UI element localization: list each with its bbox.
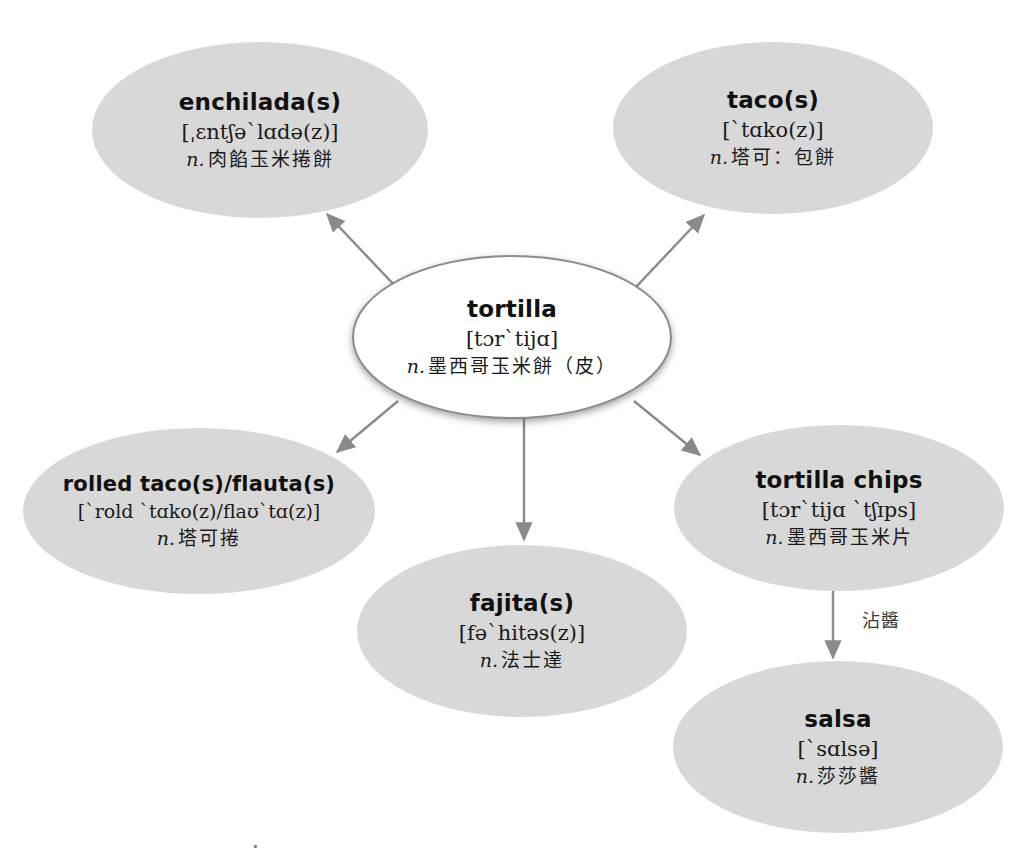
node-gloss: n.塔可捲 [157,527,241,550]
node-ipa: [tɔrˋtijɑ ˋtʃɪps] [762,498,917,522]
node-enchilada[interactable]: enchilada(s) [ˌɛntʃəˋlɑdə(z)] n.肉餡玉米捲餅 [92,42,428,218]
node-gloss: n.墨西哥玉米餅（皮） [407,355,617,378]
node-pos: n. [407,355,425,377]
edge-tortilla-to-rolled-taco [337,401,398,452]
node-term: rolled taco(s)/flauta(s) [63,472,335,496]
node-gloss: n.莎莎醬 [796,765,880,788]
node-ipa: [fəˋhitəs(z)] [459,621,585,645]
node-fajita[interactable]: fajita(s) [fəˋhitəs(z)] n.法士達 [357,545,687,717]
node-gloss: n.肉餡玉米捲餅 [186,148,333,171]
node-gloss: n.法士達 [480,649,564,672]
diagram-canvas: 沾醬 tortilla [tɔrˋtijɑ] n.墨西哥玉米餅（皮） enchi… [0,0,1031,853]
node-term: enchilada(s) [179,89,341,115]
node-salsa[interactable]: salsa [ˋsɑlsə] n.莎莎醬 [673,661,1003,833]
node-tortilla[interactable]: tortilla [tɔrˋtijɑ] n.墨西哥玉米餅（皮） [352,255,672,419]
node-term: tortilla [467,296,557,322]
node-gloss-text: 墨西哥玉米餅（皮） [428,355,617,377]
node-pos: n. [186,148,204,170]
node-gloss: n.塔可：包餅 [710,146,836,169]
node-gloss-text: 肉餡玉米捲餅 [208,148,334,170]
node-pos: n. [157,527,175,549]
node-ipa: [ˋrold ˋtɑko(z)/flaʊˋtɑ(z)] [78,501,321,523]
node-term: taco(s) [727,87,819,113]
node-gloss-text: 塔可捲 [178,527,241,549]
node-pos: n. [480,649,498,671]
node-gloss-text: 莎莎醬 [817,765,880,787]
node-tortilla-chips[interactable]: tortilla chips [tɔrˋtijɑ ˋtʃɪps] n.墨西哥玉米… [674,425,1004,591]
edge-tortilla-to-tortilla-chips [634,401,700,455]
node-term: tortilla chips [755,467,922,493]
node-pos: n. [765,526,783,548]
node-gloss-text: 塔可：包餅 [731,146,836,168]
node-ipa: [ˋtɑko(z)] [722,118,824,142]
node-gloss: n.墨西哥玉米片 [765,526,912,549]
node-ipa: [tɔrˋtijɑ] [466,327,558,351]
node-pos: n. [796,765,814,787]
node-ipa: [ˌɛntʃəˋlɑdə(z)] [181,120,338,144]
edge-label-salsa: 沾醬 [862,606,900,632]
node-rolled-taco[interactable]: rolled taco(s)/flauta(s) [ˋrold ˋtɑko(z)… [23,428,375,594]
node-taco[interactable]: taco(s) [ˋtɑko(z)] n.塔可：包餅 [613,42,933,214]
node-term: salsa [804,706,871,732]
node-gloss-text: 法士達 [501,649,564,671]
edge-tortilla-to-taco [635,215,704,288]
node-gloss-text: 墨西哥玉米片 [787,526,913,548]
edge-tortilla-to-enchilada [327,214,397,288]
node-term: fajita(s) [470,590,574,616]
node-pos: n. [710,146,728,168]
scan-speck [254,845,257,848]
node-ipa: [ˋsɑlsə] [797,737,878,761]
